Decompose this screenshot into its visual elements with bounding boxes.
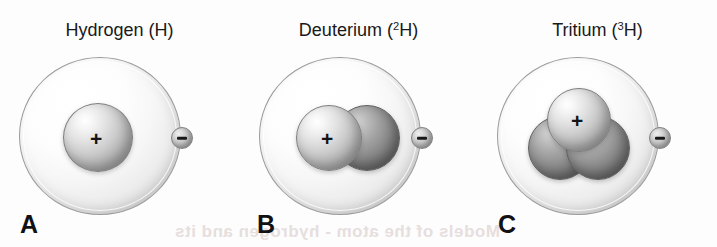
electron-charge-sign-hydrogen (177, 137, 187, 140)
panel-title-deuterium: Deuterium (2H) (239, 20, 478, 41)
electron-charge-sign-deuterium (417, 137, 427, 140)
panel-letter-c: C (498, 212, 516, 237)
panel-tritium: Tritium (3H) + C (478, 0, 717, 247)
panel-title-tritium: Tritium (3H) (478, 20, 717, 41)
element-name-hydrogen: Hydrogen (65, 20, 143, 40)
electron-charge-sign-tritium (655, 137, 665, 140)
electron-hydrogen (171, 127, 193, 149)
element-name-tritium: Tritium (552, 20, 606, 40)
electron-deuterium (411, 127, 433, 149)
panel-title-hydrogen: Hydrogen (H) (0, 20, 239, 41)
paren-close: ) (168, 20, 174, 40)
panel-letter-a: A (20, 212, 38, 237)
element-symbol-tritium: H (624, 20, 637, 40)
panel-letter-b: B (257, 212, 275, 237)
electron-tritium (649, 127, 671, 149)
paren-close: ) (637, 20, 643, 40)
proton-charge-sign-hydrogen: + (90, 128, 102, 149)
paren-close: ) (412, 20, 418, 40)
isotopes-figure: Models of the atom - hydrogen and its Hy… (0, 0, 717, 247)
element-name-deuterium: Deuterium (299, 20, 382, 40)
element-symbol-deuterium: H (399, 20, 412, 40)
panel-hydrogen: Hydrogen (H) + A (0, 0, 239, 247)
proton-charge-sign-deuterium: + (321, 128, 333, 149)
panel-deuterium: Deuterium (2H) + B (239, 0, 478, 247)
element-symbol-hydrogen: H (155, 20, 168, 40)
proton-charge-sign-tritium: + (571, 110, 583, 131)
